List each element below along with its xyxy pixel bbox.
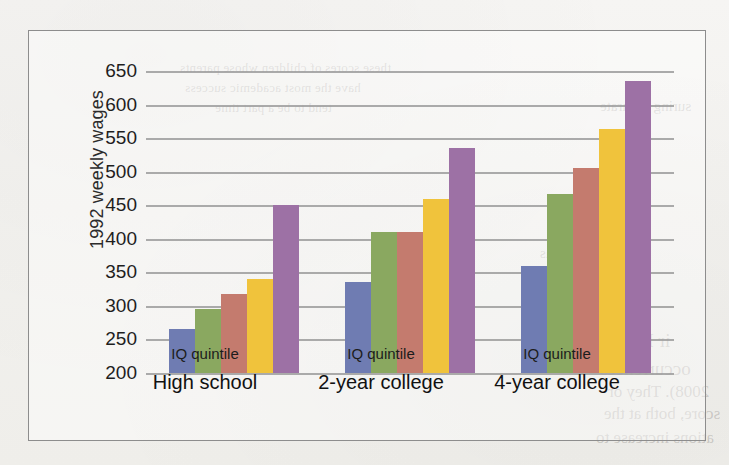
x-axis-sublabel: IQ quintile xyxy=(293,345,469,362)
x-axis-category-label: High school xyxy=(117,371,293,394)
bar[interactable] xyxy=(573,168,599,373)
x-axis-sublabel: IQ quintile xyxy=(469,345,645,362)
y-axis-tick-label: 300 xyxy=(105,295,137,317)
y-axis-tick-label: 500 xyxy=(105,161,137,183)
bar-group xyxy=(498,71,674,373)
y-axis-tick-label: 650 xyxy=(105,60,137,82)
y-axis-tick-label: 400 xyxy=(105,228,137,250)
x-axis-category-label: 2-year college xyxy=(293,371,469,394)
bar-group xyxy=(146,71,322,373)
bar-groups xyxy=(146,71,674,373)
x-axis-group-label: IQ quintile2-year college xyxy=(293,345,469,394)
y-axis-tick-label: 350 xyxy=(105,261,137,283)
x-axis-category-label: 4-year college xyxy=(469,371,645,394)
bars xyxy=(498,71,674,373)
bar[interactable] xyxy=(599,129,625,373)
x-axis-group-label: IQ quintile4-year college xyxy=(469,345,645,394)
bar[interactable] xyxy=(449,148,475,373)
x-axis-sublabel: IQ quintile xyxy=(117,345,293,362)
bars xyxy=(146,71,322,373)
y-axis-tick-label: 450 xyxy=(105,194,137,216)
y-axis-tick-label: 600 xyxy=(105,94,137,116)
bar-group xyxy=(322,71,498,373)
bars xyxy=(322,71,498,373)
plot-area: 650600550500450400350300250200 xyxy=(146,71,674,373)
bar[interactable] xyxy=(625,81,651,373)
y-axis-tick-label: 550 xyxy=(105,127,137,149)
x-axis-group-label: IQ quintileHigh school xyxy=(117,345,293,394)
x-axis-labels: IQ quintileHigh schoolIQ quintile2-year … xyxy=(117,345,645,394)
